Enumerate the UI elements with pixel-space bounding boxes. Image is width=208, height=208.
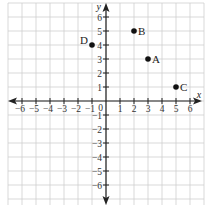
x-tick-label: 6 <box>188 104 193 114</box>
point-marker <box>173 84 179 90</box>
point-marker <box>131 28 137 34</box>
y-tick-label: −3 <box>92 139 102 149</box>
x-tick-label: 3 <box>146 104 151 114</box>
point-label: B <box>138 25 145 37</box>
x-tick-label: −4 <box>43 104 53 114</box>
y-tick-label: −4 <box>92 153 102 163</box>
point-marker <box>89 42 95 48</box>
y-tick-label: 1 <box>97 83 102 93</box>
point-c: C <box>173 81 187 93</box>
x-tick-label: −6 <box>15 104 25 114</box>
point-d: D <box>80 34 95 48</box>
y-tick-label: 5 <box>97 27 102 37</box>
point-label: D <box>80 34 88 46</box>
y-tick-label: 6 <box>97 13 102 23</box>
point-label: A <box>152 53 160 65</box>
y-axis-label: y <box>96 1 102 12</box>
point-b: B <box>131 25 145 37</box>
point-marker <box>145 56 151 62</box>
x-tick-label: 2 <box>132 104 137 114</box>
point-label: C <box>180 81 187 93</box>
y-tick-label: 2 <box>97 69 102 79</box>
y-tick-label: −6 <box>92 181 102 191</box>
x-tick-label: 5 <box>174 104 179 114</box>
x-tick-label: −3 <box>57 104 67 114</box>
x-axis-label: x <box>196 89 202 100</box>
y-tick-label: 4 <box>97 41 102 51</box>
origin-label: 0 <box>98 103 103 113</box>
x-tick-label: 1 <box>118 104 123 114</box>
y-tick-label: 3 <box>97 55 102 65</box>
tick-labels: −6−5−4−3−2−1123456654321−1−2−3−4−5−60xy <box>15 1 202 191</box>
y-tick-label: −5 <box>92 167 102 177</box>
point-a: A <box>145 53 160 65</box>
y-tick-label: −2 <box>92 125 102 135</box>
coordinate-plane: −6−5−4−3−2−1123456654321−1−2−3−4−5−60xy … <box>0 0 208 208</box>
x-tick-label: −2 <box>71 104 81 114</box>
x-tick-label: −5 <box>29 104 39 114</box>
x-tick-label: 4 <box>160 104 165 114</box>
